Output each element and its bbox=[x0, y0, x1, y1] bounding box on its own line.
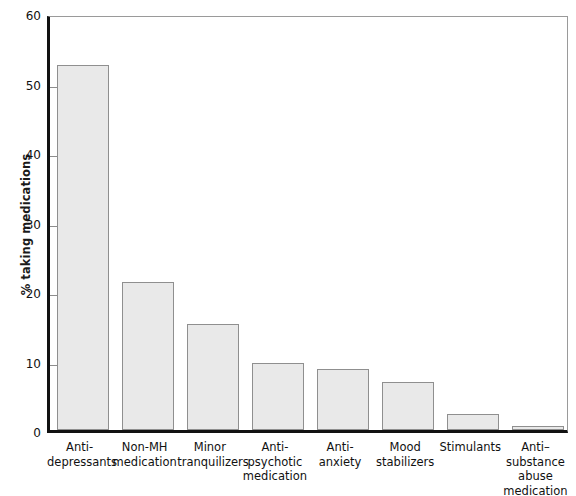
y-tick-label: 10 bbox=[7, 358, 41, 370]
bar-chart: % taking medications 0102030405060 Anti-… bbox=[0, 0, 576, 496]
bar bbox=[382, 382, 434, 430]
y-axis-tick-labels: 0102030405060 bbox=[5, 0, 41, 496]
y-tick-label: 0 bbox=[7, 427, 41, 439]
bar bbox=[512, 426, 564, 430]
x-tick-label: Anti- anxiety bbox=[308, 440, 373, 469]
x-tick-label: Anti- depressants bbox=[47, 440, 112, 469]
x-tick-label: Non-MH medication bbox=[112, 440, 177, 469]
bar bbox=[447, 414, 499, 430]
x-tick-label: Stimulants bbox=[438, 440, 503, 455]
bar bbox=[122, 282, 174, 430]
y-tick-label: 50 bbox=[7, 80, 41, 92]
bar bbox=[252, 363, 304, 430]
x-tick-label: Anti- psychotic medication bbox=[242, 440, 307, 484]
bar bbox=[317, 369, 369, 430]
x-tick-label: Minor tranquilizers bbox=[177, 440, 242, 469]
plot-frame bbox=[47, 16, 568, 433]
y-tick-label: 40 bbox=[7, 149, 41, 161]
x-tick-label: Mood stabilizers bbox=[373, 440, 438, 469]
y-tick-label: 60 bbox=[7, 10, 41, 22]
bar bbox=[57, 65, 109, 430]
y-tick-label: 30 bbox=[7, 219, 41, 231]
plot-area bbox=[50, 17, 567, 430]
x-axis-tick-labels: Anti- depressantsNon-MH medicationMinor … bbox=[47, 440, 568, 496]
bar bbox=[187, 324, 239, 430]
y-tick-label: 20 bbox=[7, 288, 41, 300]
x-tick-label: Anti– substance abuse medication bbox=[503, 440, 568, 496]
